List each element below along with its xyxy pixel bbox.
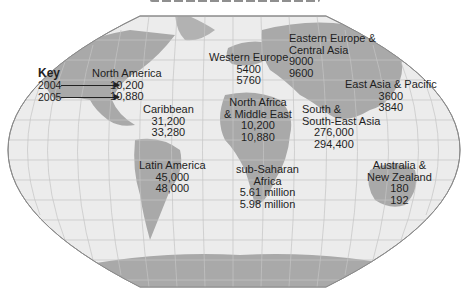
region-sub-saharan-africa: sub-SaharanAfrica5.61 million5.98 millio…	[236, 164, 299, 210]
region-north-africa-middle-east: North Africa& Middle East10,20010,880	[224, 97, 292, 143]
region-australia-new-zealand: Australia &New Zealand180192	[367, 160, 432, 206]
region-caribbean: Caribbean31,20033,280	[143, 104, 194, 139]
region-south-southeast-asia: South &South-East Asia 276,000294,400	[302, 104, 380, 150]
key-year-2005: 2005	[38, 92, 61, 104]
region-western-europe: Western Europe54005760	[209, 52, 288, 87]
region-latin-america: Latin America45,00048,000	[139, 160, 206, 195]
map-key: Key 2004 2005	[38, 67, 61, 103]
region-north-america: North America10,20010,880	[92, 68, 162, 103]
world-map	[0, 0, 466, 300]
region-eastern-europe-central-asia: Eastern Europe &Central Asia90009600	[289, 33, 376, 79]
